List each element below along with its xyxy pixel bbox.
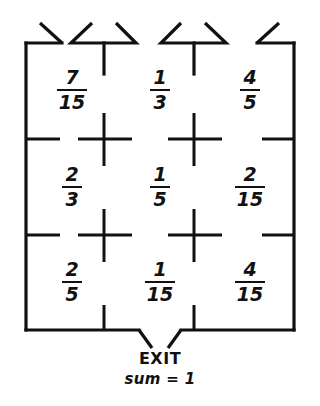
- interior-wall-segments: [26, 113, 294, 330]
- inlet-funnel-2: [71, 23, 136, 74]
- exit-funnel: [139, 330, 181, 348]
- inlet-funnel-4: [257, 23, 279, 43]
- inlet-funnel-3: [161, 23, 226, 74]
- fraction-maze-figure: 7 15 1 3 4 5 2 3: [0, 0, 320, 406]
- exit-label: EXIT: [0, 349, 320, 368]
- sum-caption: sum = 1: [0, 370, 320, 388]
- maze-diagram: [0, 0, 320, 406]
- maze-outer-border: [26, 43, 294, 330]
- inlet-funnel-1: [40, 23, 62, 43]
